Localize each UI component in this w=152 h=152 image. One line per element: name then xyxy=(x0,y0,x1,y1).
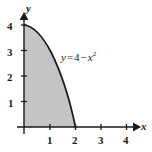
area-under-parabola-figure: 4 3 2 1 1 2 3 4 y x y=4−x2 xyxy=(0,0,152,152)
shaded-region xyxy=(24,25,76,127)
x-axis-arrow-icon xyxy=(133,123,141,132)
x-axis-tick-label-2: 2 xyxy=(72,135,78,146)
y-axis-tick-label-4: 4 xyxy=(7,21,13,32)
y-axis-label: y xyxy=(26,3,31,14)
equation-minus: − xyxy=(80,51,88,63)
curve-equation-label: y=4−x2 xyxy=(61,52,96,63)
x-axis-tick-label-4: 4 xyxy=(123,135,129,146)
equation-equals: = xyxy=(66,51,74,63)
equation-constant: 4 xyxy=(74,51,80,63)
x-axis-label: x xyxy=(141,121,147,132)
y-axis-tick-label-3: 3 xyxy=(7,47,13,58)
y-axis-tick-label-1: 1 xyxy=(8,98,14,109)
x-axis-tick-label-1: 1 xyxy=(47,135,53,146)
equation-exponent: 2 xyxy=(93,50,97,58)
x-axis-tick-label-3: 3 xyxy=(98,135,104,146)
plot-canvas xyxy=(0,0,152,152)
y-axis-tick-label-2: 2 xyxy=(7,72,13,83)
